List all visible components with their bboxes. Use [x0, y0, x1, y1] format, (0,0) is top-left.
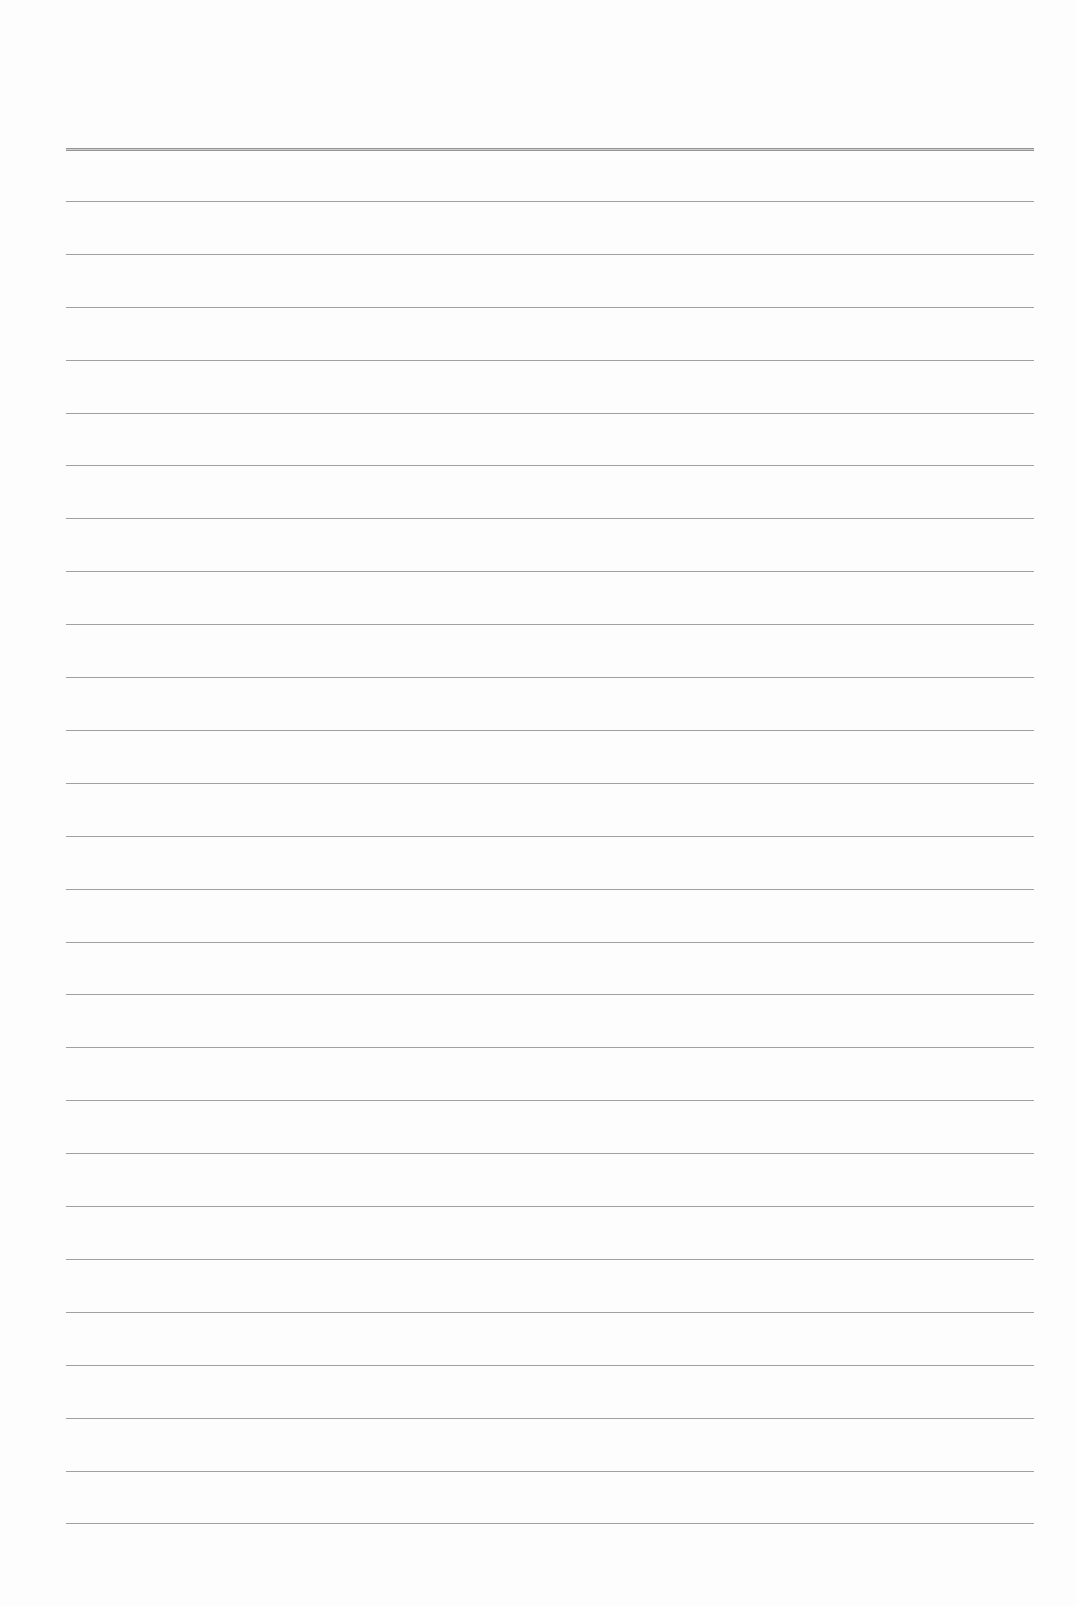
rule-line [66, 1471, 1034, 1472]
rule-line [66, 1365, 1034, 1366]
rule-line [66, 836, 1034, 837]
rule-line [66, 1259, 1034, 1260]
rule-line [66, 624, 1034, 625]
rule-line [66, 730, 1034, 731]
rule-line [66, 1206, 1034, 1207]
rule-line [66, 994, 1034, 995]
rule-line [66, 201, 1034, 202]
rule-line [66, 360, 1034, 361]
rule-line [66, 1418, 1034, 1419]
rule-line [66, 254, 1034, 255]
rule-line [66, 307, 1034, 308]
rule-line [66, 783, 1034, 784]
rule-line [66, 1047, 1034, 1048]
header-rule-line [66, 148, 1034, 151]
rule-line [66, 1312, 1034, 1313]
rule-line [66, 413, 1034, 414]
rule-line [66, 1153, 1034, 1154]
rule-line [66, 677, 1034, 678]
rule-line [66, 1100, 1034, 1101]
rule-line [66, 889, 1034, 890]
rule-line [66, 1523, 1034, 1524]
lined-paper-page [0, 0, 1076, 1606]
rule-line [66, 571, 1034, 572]
rule-line [66, 942, 1034, 943]
rule-line [66, 465, 1034, 466]
rule-line [66, 518, 1034, 519]
